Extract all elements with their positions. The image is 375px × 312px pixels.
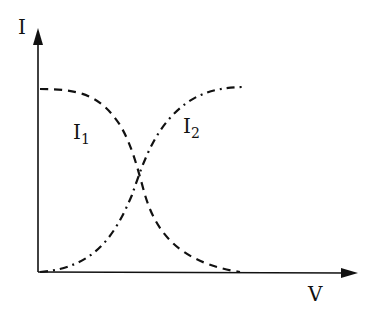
y-axis-label: I (18, 15, 26, 39)
iv-diagram: I V I1 I2 (0, 0, 375, 312)
x-axis-label: V (307, 282, 323, 306)
label-i2: I2 (183, 114, 200, 141)
curve-i2 (40, 87, 242, 272)
label-i1: I1 (73, 120, 90, 147)
x-axis-arrow-icon (341, 268, 358, 278)
x-axis (38, 272, 345, 273)
curve-i1 (40, 89, 240, 272)
y-axis-arrow-icon (33, 28, 43, 45)
